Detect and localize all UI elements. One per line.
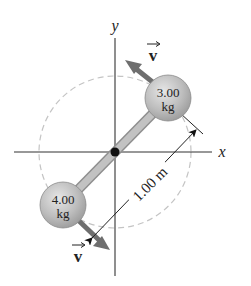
dimension-extension <box>180 113 203 134</box>
y-axis-label: y <box>109 17 119 35</box>
mass-upper-value: 3.00 <box>157 85 180 100</box>
mass-lower-unit: kg <box>57 206 71 221</box>
x-axis-label: x <box>217 143 225 160</box>
mass-upper: 3.00 kg <box>145 75 191 121</box>
svg-text:v: v <box>149 46 158 65</box>
dimension-label: 1.00 m <box>130 163 171 204</box>
rotating-dumbbell-diagram: 1.00 m 3.00 kg 4.00 kg y x v v <box>0 0 251 286</box>
mass-lower-value: 4.00 <box>52 192 75 207</box>
mass-lower: 4.00 kg <box>40 182 86 228</box>
pivot-point <box>111 148 120 157</box>
velocity-label-upper: v <box>147 42 160 66</box>
velocity-label-lower: v <box>72 243 85 267</box>
mass-upper-unit: kg <box>162 99 176 114</box>
svg-text:v: v <box>74 247 83 266</box>
